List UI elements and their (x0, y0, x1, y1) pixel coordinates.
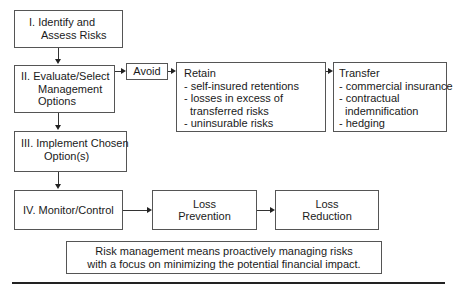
loss-reduction-box: Loss Reduction (275, 190, 379, 230)
option-transfer-item: - commercial insurance (339, 80, 440, 93)
step-implement-box: III. Implement Chosen Option(s) (14, 131, 127, 172)
step-implement-line-2: Option(s) (21, 150, 120, 163)
loss-prevention-line-1: Loss (193, 198, 216, 211)
option-retain-item: - self-insured retentions (184, 80, 319, 93)
loss-reduction-line-2: Reduction (302, 210, 352, 223)
step-identify-line-1: I. Identify and (29, 16, 116, 29)
arrow-down-icon (55, 125, 61, 130)
option-transfer-item: indemnification (339, 105, 440, 118)
step-identify-line-2: Assess Risks (29, 29, 116, 42)
option-transfer-item: - contractual (339, 92, 440, 105)
option-retain-box: Retain - self-insured retentions - losse… (176, 62, 326, 132)
step-evaluate-box: II. Evaluate/Select Management Options (14, 65, 115, 113)
step-implement-line-1: III. Implement Chosen (21, 137, 120, 150)
step-evaluate-line-1: II. Evaluate/Select (21, 70, 108, 83)
connector-iv-prevention (123, 210, 148, 211)
connector-prevention-reduction (257, 210, 271, 211)
option-retain-item: - uninsurable risks (184, 117, 319, 130)
option-transfer-item: - hedging (339, 117, 440, 130)
step-monitor-label: IV. Monitor/Control (23, 204, 114, 217)
summary-line-1: Risk management means proactively managi… (95, 245, 352, 258)
arrow-down-icon (55, 184, 61, 189)
bottom-rule (12, 282, 445, 284)
option-retain-title: Retain (184, 67, 319, 80)
summary-line-2: with a focus on minimizing the potential… (87, 258, 360, 271)
loss-prevention-box: Loss Prevention (152, 190, 257, 230)
step-identify-box: I. Identify and Assess Risks (14, 10, 123, 48)
loss-prevention-line-2: Prevention (178, 210, 231, 223)
option-retain-item: - losses in excess of (184, 92, 319, 105)
summary-box: Risk management means proactively managi… (66, 241, 382, 274)
step-evaluate-line-2: Management (21, 83, 108, 96)
option-transfer-box: Transfer - commercial insurance - contra… (333, 62, 447, 132)
arrow-down-icon (55, 59, 61, 64)
step-evaluate-line-3: Options (21, 95, 108, 108)
loss-reduction-line-1: Loss (315, 198, 338, 211)
option-avoid-label: Avoid (133, 65, 160, 78)
step-monitor-box: IV. Monitor/Control (14, 190, 123, 230)
option-retain-item: transferred risks (184, 105, 319, 118)
option-avoid-box: Avoid (126, 63, 168, 80)
option-transfer-title: Transfer (339, 67, 440, 80)
